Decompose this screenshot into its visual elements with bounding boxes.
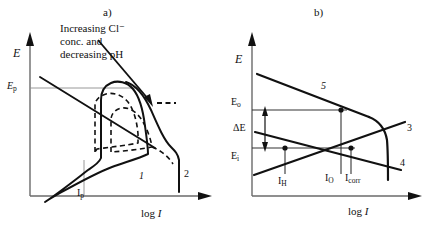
panel-b-ei-label: Ei: [231, 150, 239, 163]
panel-a-curve-label-2: 2: [184, 168, 189, 179]
panel-a-annotation-line3: decreasing pH: [60, 48, 123, 60]
panel-a-ep-sub: p: [13, 84, 17, 93]
panel-b-x-axis-prefix: log: [348, 205, 365, 217]
panel-b-marker-ih: [282, 145, 287, 150]
panel-a-y-axis-label: E: [13, 47, 20, 60]
panel-b-curve-label-4: 4: [400, 157, 405, 168]
panel-a-x-axis-var: I: [158, 207, 162, 219]
panel-a-dashed-curve-3: [152, 147, 173, 164]
panel-b-ei-sub: i: [237, 154, 239, 163]
figure-container: a) Increasing Cl⁻ conc. and decreasing p…: [0, 0, 442, 231]
panel-b-line-4: [255, 132, 401, 170]
panel-a-x-axis-label: log I: [141, 207, 161, 219]
panel-b-curve-label-5: 5: [321, 80, 326, 91]
panel-b-marker-icorr: [348, 145, 353, 150]
panel-b-x-axis-var: I: [365, 205, 369, 217]
panel-b-icorr-sub: corr: [348, 176, 360, 185]
panel-b-curve-label-3: 3: [407, 122, 412, 133]
panel-a-curve-label-1: 1: [139, 170, 144, 181]
panel-a-ep-label: Ep: [7, 80, 17, 93]
panel-b-y-axis-label: E: [235, 53, 242, 66]
panel-b-line-5-passive-branch: [369, 117, 388, 180]
panel-b-delta-e-label: ΔE: [233, 122, 246, 133]
panel-b-eo-sub: o: [237, 100, 241, 109]
panel-b-io-label: IO: [325, 172, 334, 185]
panel-a-annotation-line1: Increasing Cl⁻: [60, 22, 125, 34]
panel-a: a) Increasing Cl⁻ conc. and decreasing p…: [0, 0, 221, 231]
panel-b-tag: b): [314, 6, 323, 18]
panel-b-ih-sub: H: [281, 179, 286, 188]
panel-b-x-axis-label: log I: [348, 205, 368, 217]
panel-b-icorr-label: Icorr: [345, 172, 360, 185]
panel-b-delta-e-arrow: [262, 106, 268, 152]
panel-a-ip-sub: p: [80, 191, 84, 200]
panel-b-graphic: [221, 0, 442, 231]
panel-b-ih-label: IH: [278, 175, 287, 188]
panel-b: b) E Eo ΔE Ei IH IO Icorr 5 3 4 log I: [221, 0, 442, 231]
panel-b-io-sub: O: [328, 176, 333, 185]
panel-a-curve-2: [126, 82, 179, 192]
panel-a-ip-label: Ip: [77, 187, 84, 200]
panel-a-x-axis-prefix: log: [141, 207, 158, 219]
panel-a-tag: a): [103, 6, 112, 18]
panel-b-line-5: [257, 74, 369, 117]
panel-b-eo-label: Eo: [231, 96, 241, 109]
panel-b-marker-io: [338, 107, 343, 112]
panel-a-annotation: Increasing Cl⁻ conc. and decreasing pH: [60, 22, 165, 62]
panel-b-axes: [248, 32, 422, 200]
panel-a-annotation-line2: conc. and: [60, 35, 102, 47]
